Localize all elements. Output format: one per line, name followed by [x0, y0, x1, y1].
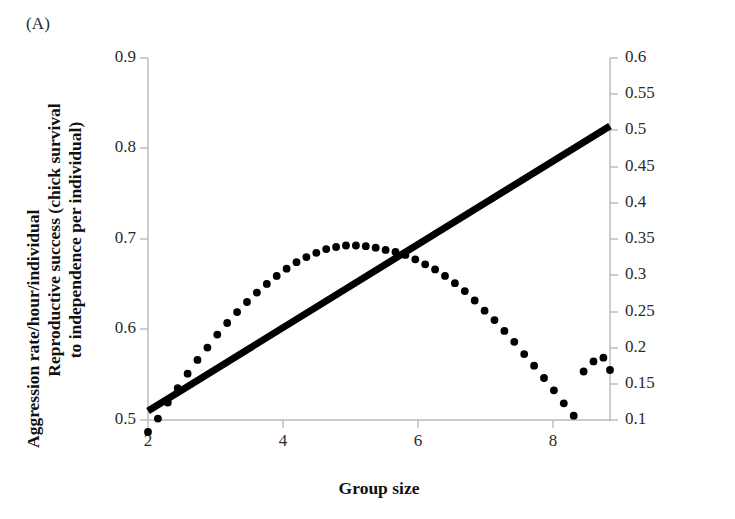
data-point [481, 307, 489, 315]
data-point [421, 260, 429, 268]
data-point [501, 327, 509, 335]
data-point [213, 331, 221, 339]
data-point [184, 370, 192, 378]
data-point [303, 253, 311, 261]
data-point [411, 255, 419, 263]
x-axis-ticks [148, 420, 553, 428]
data-point [283, 265, 291, 273]
data-point [402, 251, 410, 259]
data-point [580, 368, 588, 376]
data-point [550, 386, 558, 394]
plot-area [0, 0, 735, 519]
data-point [342, 242, 350, 250]
data-point [312, 249, 320, 257]
data-point [233, 308, 241, 316]
data-point [322, 245, 330, 253]
data-point [253, 289, 261, 297]
data-point [570, 412, 578, 420]
series-reproductive-success-line [148, 126, 610, 411]
data-point [263, 280, 271, 288]
data-point [164, 399, 172, 407]
data-point [144, 428, 152, 436]
y-axis-left-ticks [140, 58, 148, 420]
data-point [273, 272, 281, 280]
data-point [204, 344, 212, 352]
data-point [520, 350, 528, 358]
data-point [560, 399, 568, 407]
data-point [590, 358, 598, 366]
data-point [530, 362, 538, 370]
data-point [194, 356, 202, 364]
data-point [441, 272, 449, 280]
data-point [174, 384, 182, 392]
data-point [332, 243, 340, 251]
data-point [243, 298, 251, 306]
data-point [431, 266, 439, 274]
data-point [382, 246, 390, 254]
figure-panel-a: (A) Reproductive success (chick survival… [0, 0, 735, 519]
data-point [352, 242, 360, 250]
data-point [606, 366, 614, 374]
y-axis-right-ticks [610, 58, 618, 420]
data-point [223, 319, 231, 327]
data-point [154, 415, 162, 423]
data-point [510, 338, 518, 346]
data-point [362, 242, 370, 250]
data-point [600, 354, 608, 362]
data-point [461, 287, 469, 295]
data-point [451, 279, 459, 287]
data-point [293, 258, 301, 266]
data-point [540, 374, 548, 382]
data-point [392, 248, 400, 256]
data-point [491, 316, 499, 324]
data-point [372, 244, 380, 252]
data-point [471, 297, 479, 305]
